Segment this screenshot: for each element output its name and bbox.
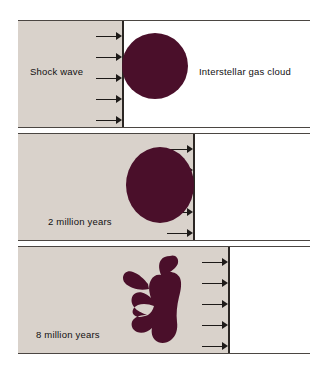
panel-bottom-rule [18, 353, 310, 354]
panel-bottom-rule [18, 127, 310, 128]
panel-2-million-years: 2 million years [18, 133, 310, 241]
panel-bottom-rule [18, 240, 310, 241]
panel-initial: Shock wave Interstellar gas cloud [18, 20, 310, 128]
time-label-2-million: 2 million years [48, 216, 112, 227]
gas-cloud [118, 254, 194, 350]
interstellar-gas-cloud-label: Interstellar gas cloud [199, 66, 291, 77]
time-label-8-million: 8 million years [36, 329, 100, 340]
gas-cloud [122, 33, 188, 99]
shock-front-line [228, 247, 230, 353]
gas-cloud [126, 147, 194, 223]
shock-cloud-diagram: Shock wave Interstellar gas cloud 2 mill… [0, 0, 330, 366]
panel-8-million-years: 8 million years [18, 246, 310, 354]
shock-wave-label: Shock wave [30, 66, 83, 77]
